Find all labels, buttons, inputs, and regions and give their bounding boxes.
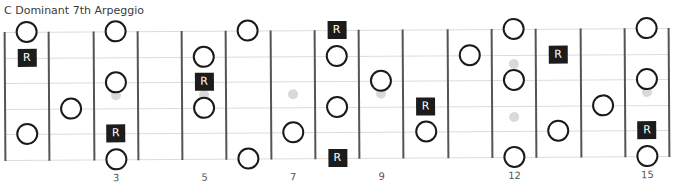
- arpeggio-note-marker: [503, 69, 525, 91]
- inlay-dot-fret-12-2: [509, 112, 519, 122]
- arpeggio-note-marker: [326, 45, 348, 67]
- fret-line-6: [269, 30, 272, 159]
- arpeggio-note-marker: [238, 147, 260, 169]
- arpeggio-note-marker: [459, 44, 481, 66]
- root-note-marker: R: [106, 125, 125, 143]
- fret-line-3: [136, 31, 139, 160]
- fret-number-label: 12: [503, 170, 527, 181]
- inlay-dot-fret-7: [288, 89, 298, 99]
- fret-line-11: [491, 29, 494, 158]
- arpeggio-note-marker: [105, 148, 127, 170]
- fret-line-4: [181, 31, 184, 160]
- root-note-marker: R: [328, 149, 347, 167]
- arpeggio-note-marker: [16, 21, 38, 43]
- fret-line-14: [623, 28, 626, 157]
- arpeggio-note-marker: [503, 146, 525, 168]
- fret-line-15: [668, 28, 671, 157]
- fret-line-10: [446, 29, 449, 158]
- fret-line-5: [225, 31, 228, 160]
- arpeggio-note-marker: [326, 96, 348, 118]
- root-note-marker: R: [549, 45, 568, 63]
- arpeggio-note-marker: [592, 94, 614, 116]
- fret-line-0: [4, 32, 7, 161]
- arpeggio-note-marker: [548, 120, 570, 142]
- arpeggio-note-marker: [60, 97, 82, 119]
- arpeggio-note-marker: [636, 145, 658, 167]
- root-note-marker: R: [195, 73, 214, 91]
- root-note-marker: R: [416, 97, 435, 115]
- arpeggio-note-marker: [503, 18, 525, 40]
- fret-number-label: 7: [281, 171, 305, 182]
- fret-line-8: [358, 30, 361, 159]
- root-note-marker: R: [327, 21, 346, 39]
- root-note-marker: R: [17, 48, 36, 66]
- arpeggio-note-marker: [636, 68, 658, 90]
- arpeggio-note-marker: [193, 97, 215, 119]
- arpeggio-note-marker: [105, 71, 127, 93]
- fret-number-label: 3: [104, 172, 128, 183]
- fret-line-7: [313, 30, 316, 159]
- fret-line-1: [48, 32, 51, 161]
- string-line-5: [5, 130, 670, 135]
- arpeggio-note-marker: [635, 17, 657, 39]
- fret-line-2: [92, 31, 95, 160]
- arpeggio-note-marker: [282, 122, 304, 144]
- fret-number-label: 15: [635, 169, 659, 180]
- root-note-marker: R: [638, 121, 657, 139]
- fret-number-label: 5: [193, 172, 217, 183]
- arpeggio-note-marker: [370, 70, 392, 92]
- fret-number-label: 9: [370, 171, 394, 182]
- arpeggio-note-marker: [237, 19, 259, 41]
- arpeggio-note-marker: [415, 121, 437, 143]
- arpeggio-note-marker: [16, 123, 38, 145]
- arpeggio-note-marker: [193, 45, 215, 67]
- fret-line-13: [579, 29, 582, 158]
- inlay-dot-fret-12-1: [509, 58, 519, 68]
- arpeggio-note-marker: [104, 20, 126, 42]
- fret-line-9: [402, 30, 405, 159]
- fret-line-12: [535, 29, 538, 158]
- fretboard: RRRRRRRR35791215: [0, 0, 675, 187]
